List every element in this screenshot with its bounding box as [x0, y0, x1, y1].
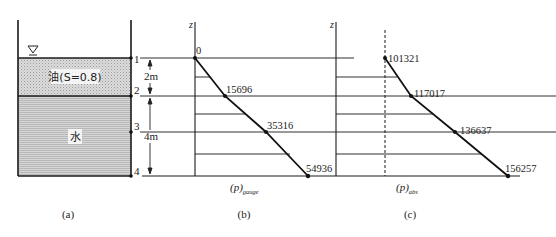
pressure-distribution-diagram: 油(S=0.8) 水 1 2 3 4 2m 4m (a) — [0, 0, 556, 237]
abs-value-1: 101321 — [388, 53, 420, 64]
abs-value-4: 156257 — [505, 163, 537, 174]
point-4-label: 4 — [134, 165, 140, 177]
water-label: 水 — [70, 131, 81, 144]
gauge-value-1: 0 — [196, 45, 201, 56]
free-surface-icon — [28, 46, 38, 55]
abs-value-2: 117017 — [414, 88, 445, 99]
abs-axis-label: (p)abs — [396, 181, 418, 195]
dimension-2m-label: 2m — [144, 70, 159, 82]
gauge-axis-label: (p)gauge — [230, 181, 259, 195]
point-2-label: 2 — [134, 84, 140, 96]
panel-c-absolute-pressure: z 101321 117017 136637 156257 (p)abs (c) — [329, 19, 537, 221]
gauge-pressure-line — [195, 58, 308, 176]
oil-label: 油(S=0.8) — [48, 70, 101, 84]
point-4-marker — [129, 174, 133, 178]
gauge-value-2: 15696 — [226, 84, 252, 95]
panel-b-gauge-pressure: z 0 15696 35316 54936 (p)gauge (b) — [188, 19, 332, 221]
abs-value-3: 136637 — [460, 125, 492, 136]
reference-lines — [140, 58, 556, 176]
z-axis-b-label: z — [188, 19, 193, 30]
absolute-pressure-line — [385, 58, 508, 176]
panel-c-caption: (c) — [404, 208, 417, 221]
panel-a-caption: (a) — [62, 208, 75, 221]
z-axis-c-label: z — [329, 19, 334, 30]
gauge-value-4: 54936 — [306, 163, 332, 174]
point-1-marker — [129, 56, 133, 60]
point-3-marker — [129, 130, 133, 134]
gauge-value-3: 35316 — [267, 120, 293, 131]
point-1-label: 1 — [134, 53, 140, 65]
panel-a-tank: 油(S=0.8) 水 1 2 3 4 2m 4m (a) — [18, 20, 160, 221]
point-2-marker — [129, 94, 133, 98]
panel-b-caption: (b) — [238, 208, 251, 221]
pressure-stripes-c — [336, 77, 481, 154]
point-3-label: 3 — [134, 120, 140, 132]
